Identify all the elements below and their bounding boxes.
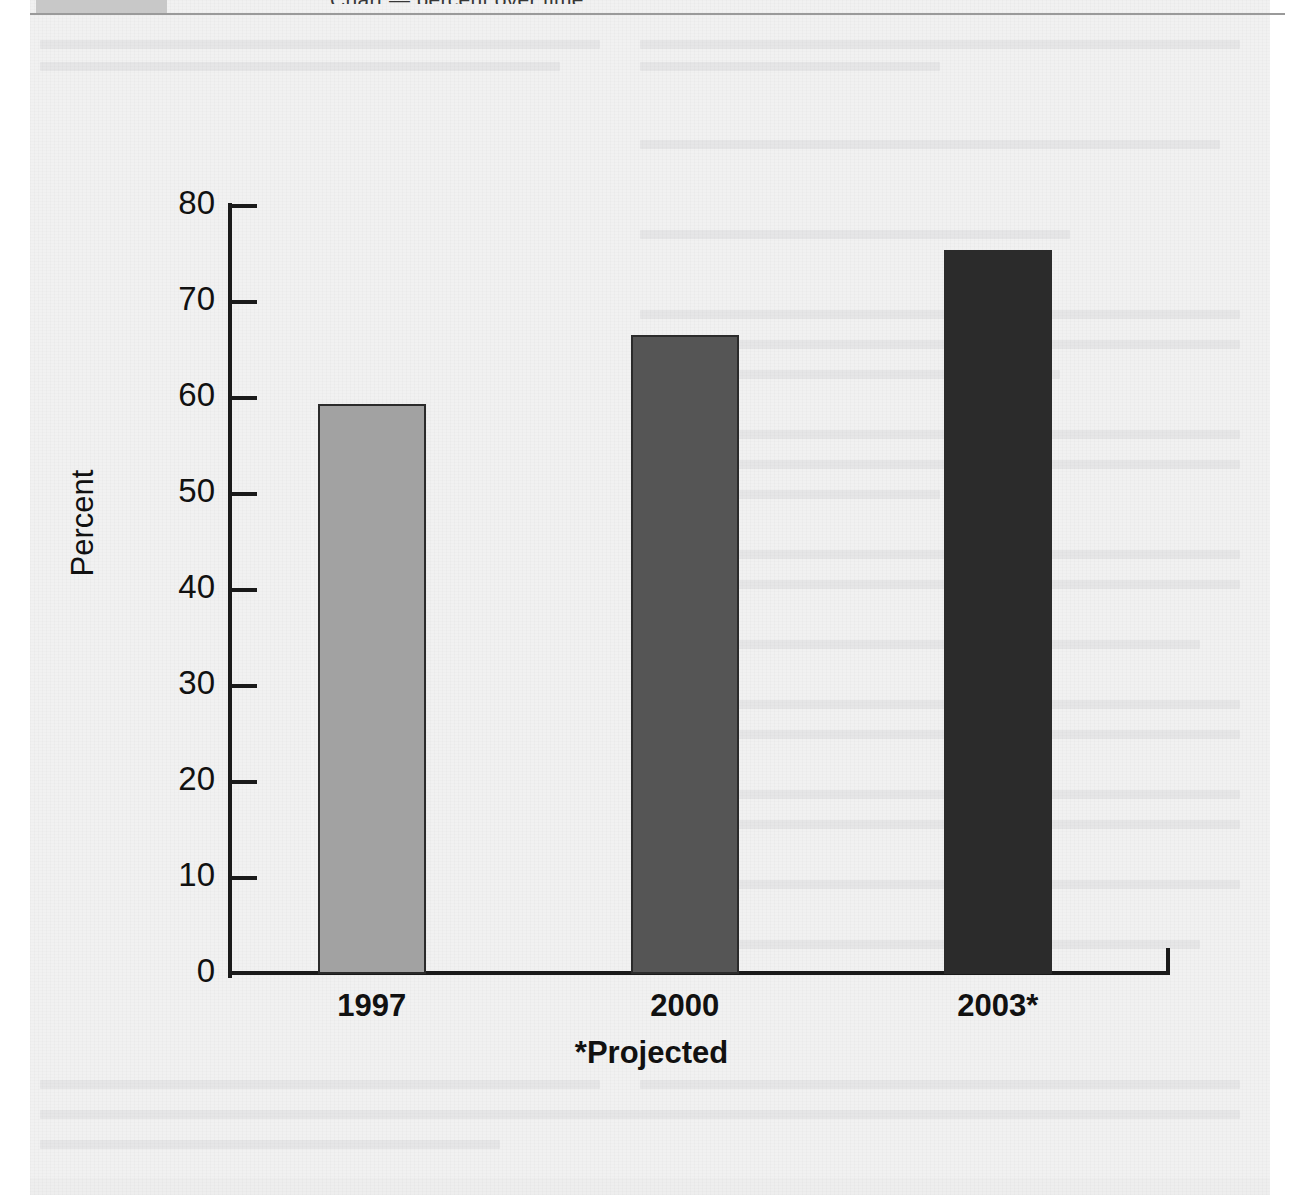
y-axis-tick-label: 20 (105, 760, 215, 798)
y-axis-tick-label: 10 (105, 856, 215, 894)
bar-chart: 80706050403020100 Percent 199720002003* … (0, 0, 1303, 1195)
y-axis-tick-label: 0 (105, 952, 215, 990)
x-axis-tick-label: 2000 (565, 988, 805, 1024)
y-axis-title: Percent (65, 438, 101, 608)
y-axis-tick-label: 70 (105, 280, 215, 318)
x-axis-tick-label: 1997 (252, 988, 492, 1024)
chart-footnote: *Projected (0, 1035, 1303, 1071)
y-axis-tick-label: 30 (105, 664, 215, 702)
y-axis-tick-label: 60 (105, 376, 215, 414)
y-axis-tick-label: 80 (105, 184, 215, 222)
y-axis-tick-label: 50 (105, 472, 215, 510)
scanned-page: Chart — percent over time 80706050403020… (0, 0, 1303, 1195)
y-axis-tick-label: 40 (105, 568, 215, 606)
x-axis-tick-label: 2003* (878, 988, 1118, 1024)
bar-2003 (944, 250, 1052, 974)
bars-layer (231, 206, 1170, 974)
page-bottom-edge (30, 1178, 1270, 1195)
bar-1997 (318, 404, 426, 974)
bar-2000 (631, 335, 739, 974)
